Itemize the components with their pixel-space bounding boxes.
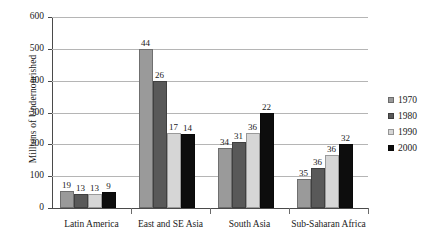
y-tick-label: 100 — [4, 170, 44, 180]
legend-item[interactable]: 1970 — [388, 92, 428, 108]
x-axis-separator — [210, 208, 211, 214]
legend-swatch-icon — [388, 97, 394, 103]
y-tick-label: 600 — [4, 11, 44, 21]
bar-group: 34313622 — [210, 17, 289, 208]
y-tick-label: 200 — [4, 138, 44, 148]
legend-swatch-icon — [388, 113, 394, 119]
legend-label: 1970 — [398, 95, 417, 105]
legend-item[interactable]: 2000 — [388, 140, 428, 156]
bar-group: 35363632 — [289, 17, 368, 208]
bar[interactable] — [181, 134, 195, 208]
legend-item[interactable]: 1990 — [388, 124, 428, 140]
bar[interactable] — [260, 113, 274, 209]
y-tick-label: 0 — [4, 202, 44, 212]
x-axis-separator — [289, 208, 290, 214]
legend-swatch-icon — [388, 129, 394, 135]
bar[interactable] — [167, 133, 181, 208]
bar[interactable] — [325, 155, 339, 208]
bar-value-label: 26 — [147, 70, 173, 80]
bar-group: 1913139 — [52, 17, 131, 208]
bar[interactable] — [232, 142, 246, 208]
legend-swatch-icon — [388, 145, 394, 151]
plot-area: 1913139442617143431362235363632 — [52, 17, 368, 208]
legend-label: 2000 — [398, 143, 417, 153]
y-tick-label: 500 — [4, 43, 44, 53]
legend-label: 1990 — [398, 127, 417, 137]
legend: 1970198019902000 — [388, 92, 428, 156]
bar[interactable] — [246, 133, 260, 208]
bar-value-label: 32 — [333, 133, 359, 143]
bar[interactable] — [88, 194, 102, 208]
bar-chart: Millions of Undernourished 0100200300400… — [0, 0, 428, 252]
y-tick-label: 300 — [4, 107, 44, 117]
x-axis-category-label: South Asia — [210, 219, 289, 229]
bar[interactable] — [153, 81, 167, 208]
legend-label: 1980 — [398, 111, 417, 121]
bar[interactable] — [74, 194, 88, 208]
bar[interactable] — [218, 148, 232, 208]
y-tick-label: 400 — [4, 75, 44, 85]
bar-value-label: 14 — [175, 123, 201, 133]
legend-item[interactable]: 1980 — [388, 108, 428, 124]
bar-value-label: 22 — [254, 102, 280, 112]
bar-groups: 1913139442617143431362235363632 — [52, 17, 368, 208]
x-axis-category-label: Sub-Saharan Africa — [289, 219, 368, 229]
bar-value-label: 44 — [133, 38, 159, 48]
x-axis-separator — [131, 208, 132, 214]
bar[interactable] — [102, 192, 116, 208]
bar[interactable] — [60, 191, 74, 208]
bar[interactable] — [311, 168, 325, 208]
x-axis-category-label: East and SE Asia — [131, 219, 210, 229]
x-axis-separator — [368, 208, 369, 214]
bar[interactable] — [339, 144, 353, 208]
x-axis-category-label: Latin America — [52, 219, 131, 229]
bar-value-label: 9 — [96, 181, 122, 191]
bar-group: 44261714 — [131, 17, 210, 208]
bar[interactable] — [297, 179, 311, 208]
